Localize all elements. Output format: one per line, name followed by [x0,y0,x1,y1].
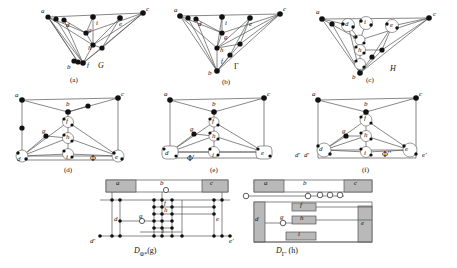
bar-label-d-prime: d′ [90,238,95,245]
panel-g: a b c f g h d i e d′ e′ DΦ*(g) [90,176,240,268]
vertex-label-i: i [364,150,366,157]
vertex-label-g: g [42,128,46,135]
vertex-label-b: b [364,101,368,108]
caption-g: (g) [147,246,156,255]
vertex-label-a: a [164,91,168,98]
vertex-label-g: g [224,34,228,41]
vertex-label-i: i [364,19,366,26]
vertex-label-e: e [261,150,264,157]
bar-label-f: f [300,202,302,209]
vertex-label-a: a [316,9,320,16]
vertex-label-d: d [17,156,21,163]
vertex-label-h: h [364,132,368,139]
panel-c: a c d i e g h b H (c) [304,0,457,88]
vertex-label-h: h [66,134,70,141]
vertex-label-c: c [146,6,149,13]
bar-label-i: i [162,228,164,235]
vertex-label-a: a [15,92,19,99]
vertex-label-d: d [66,22,70,29]
caption-h: (h) [289,246,298,255]
bar-label-d: d [114,216,118,223]
vertex-label-c: c [283,6,286,13]
vertex-label-e: e [115,154,118,161]
panel-a: a c d i e g h b f G (a) [0,0,152,88]
vertex-label-e: e [405,146,408,153]
vertex-label-g: g [190,126,194,133]
vertex-label-e-prime: e′ [422,152,427,159]
vertex-label-c: c [121,91,124,98]
vertex-label-b: b [208,70,212,77]
vertex-label-e: e [119,21,122,28]
bar-label-c: c [354,180,357,187]
vertex-label-d: d [319,146,323,153]
bar-label-i: i [298,231,300,238]
vertex-label-d-prime-next: d′ [295,152,300,159]
vertex-label-d: d [165,150,169,157]
bar-label-d: d [255,216,259,223]
diagram-label-D-Phi-star: DΦ*(g) [134,246,157,257]
panel-b: a c d i e g h b f Γ (b) [152,0,304,88]
bar-label-b: b [160,180,164,187]
panel-f-graphic [304,88,457,176]
caption-a: (a) [70,76,78,84]
vertex-label-i: i [225,20,227,27]
diagram-label-D-Gamma-prime: DΓ′ (h) [276,246,298,257]
panel-f: a b c f g h d i e d′ e′ Φ′′ (f) [304,88,457,176]
graph-name-Phi-dprime: Φ′′ [382,150,391,159]
caption-f: (f) [362,166,369,174]
graph-name-G: G [98,61,104,70]
vertex-label-e: e [390,22,393,29]
panel-h-graphic [240,176,390,268]
vertex-label-c2: c [433,11,436,18]
vertex-label-d: d [345,21,349,28]
panel-e: a b c f g h d i e Φ′ (e) d′ [152,88,304,176]
vertex-label-i: i [96,20,98,27]
caption-d: (d) [64,166,72,174]
caption-b: (b) [222,78,230,86]
panel-a-graphic [0,0,152,88]
D-subscript-gamma-prime: Γ′ [282,251,287,257]
vertex-label-g: g [353,33,357,40]
graph-name-Phi: Φ [90,154,96,163]
vertex-label-h: h [212,133,216,140]
bar-label-b: b [303,180,307,187]
vertex-label-c: c [267,91,270,98]
vertex-label-b: b [67,64,71,71]
vertex-label-h: h [88,45,92,52]
bar-label-e: e [216,216,219,223]
vertex-label-h: h [220,47,224,54]
vertex-label-i: i [66,154,68,161]
panel-d: a b c f g h d i e Φ (d) [0,88,152,176]
vertex-label-f: f [212,118,214,125]
panel-e-graphic [152,88,304,176]
bar-label-e: e [361,220,364,227]
graph-name-Gamma: Γ [234,62,239,71]
bar-label-g: g [139,213,143,220]
vertex-label-a: a [41,8,45,15]
vertex-label-g: g [342,128,346,135]
vertex-label-i: i [212,152,214,159]
vertex-label-f: f [364,115,366,122]
vertex-label-a: a [312,91,316,98]
bar-label-h: h [164,207,168,214]
vertex-label-f: f [66,118,68,125]
bar-label-h: h [300,215,304,222]
bar-label-e-prime: e′ [229,238,234,245]
panel-d-graphic [0,88,152,176]
bar-label-a: a [116,180,120,187]
figure-canvas: a c d i e g h b f G (a) [0,0,457,268]
vertex-label-b: b [66,101,70,108]
vertex-label-f: f [87,62,89,69]
vertex-label-d-prime: d′ [304,152,309,159]
bar-label-g: g [280,214,284,221]
caption-c: (c) [366,76,374,84]
bar-label-a: a [264,180,268,187]
graph-name-Phi-prime: Φ′ [187,154,195,163]
vertex-label-d: d [198,21,202,28]
vertex-label-f: f [221,58,223,65]
vertex-label-b: b [212,101,216,108]
panel-h: a b c d f g h i e DΓ′ (h) [240,176,390,268]
vertex-label-b: b [352,74,356,81]
vertex-label-g: g [88,27,92,34]
vertex-label-c: c [419,91,422,98]
